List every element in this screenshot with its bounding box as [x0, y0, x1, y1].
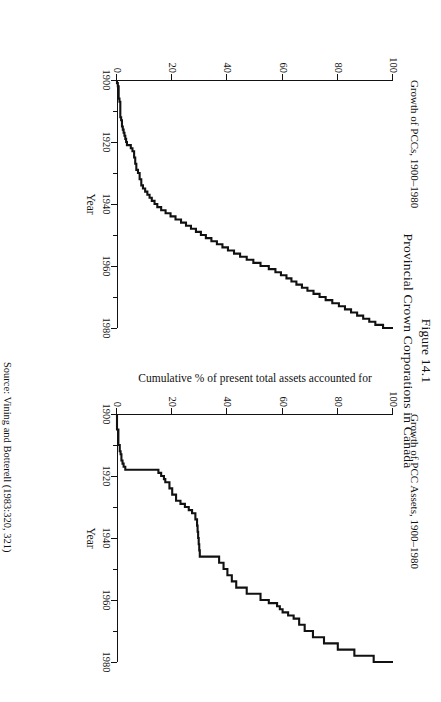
y-tick-label: 40: [222, 63, 233, 74]
x-tick-label: 1980: [101, 318, 112, 339]
y-tick-label: 40: [222, 397, 233, 408]
x-tick-label: 1920: [101, 466, 112, 487]
y-tick-label: 0: [112, 68, 123, 73]
x-tick-minor: [114, 507, 118, 508]
x-tick-minor: [114, 111, 118, 112]
y-tick: [337, 408, 338, 414]
x-tick-label: 1900: [101, 70, 112, 91]
source-note: Source: Vining and Botterell (1983:320, …: [2, 362, 13, 552]
y-tick-label: 20: [167, 63, 178, 74]
x-tick-minor: [114, 235, 118, 236]
y-tick: [392, 74, 393, 80]
y-tick-label: 20: [167, 397, 178, 408]
y-tick-label: 80: [332, 63, 343, 74]
y-tick: [226, 74, 227, 80]
data-curve-pccs: [117, 80, 393, 328]
y-tick-label: 100: [388, 57, 399, 73]
x-tick-label: 1900: [101, 404, 112, 425]
x-tick-minor: [114, 173, 118, 174]
x-tick-minor: [114, 445, 118, 446]
x-tick-label: 1920: [101, 132, 112, 153]
y-tick: [282, 408, 283, 414]
panel-growth-of-pcc-assets: Growth of PCC Assets, 1900–1980 Year Cum…: [37, 362, 397, 680]
data-curve-assets: [117, 414, 393, 662]
y-tick: [337, 74, 338, 80]
plot-area-assets: Year Cumulative % of present total asset…: [117, 414, 393, 662]
y-tick: [226, 408, 227, 414]
y-tick-label: 100: [388, 391, 399, 407]
y-tick-label: 0: [112, 402, 123, 407]
y-tick: [171, 408, 172, 414]
x-axis-title-assets: Year: [85, 527, 97, 548]
x-tick-label: 1960: [101, 590, 112, 611]
x-tick-minor: [114, 569, 118, 570]
x-tick-minor: [114, 631, 118, 632]
x-tick-label: 1960: [101, 256, 112, 277]
y-tick-label: 60: [277, 397, 288, 408]
panel-growth-of-pccs: Growth of PCCs, 1900–1980 Year 020406080…: [37, 28, 397, 346]
y-tick-label: 80: [332, 397, 343, 408]
panel-caption-assets: Growth of PCC Assets, 1900–1980: [409, 414, 421, 569]
y-tick: [392, 408, 393, 414]
y-tick: [171, 74, 172, 80]
x-tick-label: 1940: [101, 194, 112, 215]
x-tick-minor: [114, 297, 118, 298]
x-tick-label: 1980: [101, 652, 112, 673]
y-axis-title-assets: Cumulative % of present total assets acc…: [138, 372, 371, 384]
x-tick-label: 1940: [101, 528, 112, 549]
plot-area-pccs: Year 02040608010019001920194019601980: [117, 80, 393, 328]
figure-page: Figure 14.1 Provincial Crown Corporation…: [0, 0, 441, 702]
y-tick: [282, 74, 283, 80]
panel-caption-pccs: Growth of PCCs, 1900–1980: [409, 80, 421, 208]
x-axis-title-pccs: Year: [85, 193, 97, 214]
y-tick-label: 60: [277, 63, 288, 74]
